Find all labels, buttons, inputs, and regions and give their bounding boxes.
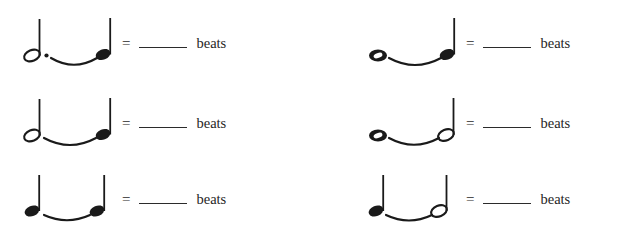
note-stem <box>39 99 41 136</box>
tie-slur <box>44 138 96 145</box>
note-stem <box>109 98 111 135</box>
tie-slur <box>44 215 90 220</box>
answer-group: = beats <box>122 114 226 131</box>
note-quarter-note <box>367 175 385 219</box>
answer-group: = beats <box>466 114 570 131</box>
equals-sign: = <box>466 192 474 207</box>
beats-label: beats <box>196 116 226 131</box>
answer-blank[interactable] <box>483 190 531 204</box>
beats-label: beats <box>540 36 570 51</box>
answer-blank[interactable] <box>139 34 187 48</box>
notation-quarter-tied-quarter <box>18 169 122 227</box>
answer-blank[interactable] <box>483 114 531 128</box>
note-half-note <box>436 98 455 143</box>
note-whole-note <box>369 130 387 142</box>
note-stem <box>382 175 384 211</box>
note-quarter-note <box>88 175 106 219</box>
equals-sign: = <box>466 36 474 51</box>
beats-label: beats <box>196 36 226 51</box>
answer-blank[interactable] <box>483 34 531 48</box>
note-stem <box>453 98 455 135</box>
equals-sign: = <box>122 192 130 207</box>
tie-slur <box>389 58 441 65</box>
tie-slur <box>51 58 97 65</box>
note-stem <box>39 19 41 56</box>
note-dotted-half-note <box>22 19 48 64</box>
note-quarter-note <box>94 98 112 142</box>
note-stem <box>446 175 448 211</box>
beats-label: beats <box>540 116 570 131</box>
notation-half-tied-quarter <box>18 93 122 151</box>
notation-dotted-half-tied-quarter <box>18 13 122 71</box>
notehead-filled <box>438 47 456 62</box>
tie-slur <box>386 215 432 221</box>
answer-blank[interactable] <box>139 190 187 204</box>
augmentation-dot <box>44 53 48 57</box>
notehead-filled <box>94 127 112 142</box>
tie-slur <box>389 138 439 145</box>
beats-label: beats <box>540 192 570 207</box>
notehead-filled <box>367 203 385 218</box>
note-quarter-note <box>23 175 41 219</box>
note-quarter-note <box>94 18 112 62</box>
problem-4: = beats <box>362 90 570 154</box>
worksheet-page: = beats = beats <box>0 0 640 237</box>
notehead-filled <box>88 203 106 218</box>
note-stem <box>38 175 40 211</box>
problem-5: = beats <box>18 166 226 230</box>
answer-group: = beats <box>122 34 226 51</box>
answer-group: = beats <box>466 34 570 51</box>
notehead-filled <box>23 203 41 218</box>
note-stem <box>109 18 111 55</box>
note-half-note <box>22 99 41 144</box>
note-half-note <box>429 175 448 219</box>
note-whole-note <box>369 50 387 62</box>
notehead-filled <box>94 47 112 62</box>
beats-label: beats <box>196 192 226 207</box>
problem-1: = beats <box>18 10 226 74</box>
equals-sign: = <box>122 116 130 131</box>
problem-3: = beats <box>18 90 226 154</box>
notation-whole-tied-half <box>362 93 466 151</box>
note-stem <box>103 175 105 211</box>
note-quarter-note <box>438 18 456 62</box>
notation-whole-tied-quarter <box>362 13 466 71</box>
problem-2: = beats <box>362 10 570 74</box>
answer-group: = beats <box>122 190 226 207</box>
answer-blank[interactable] <box>139 114 187 128</box>
equals-sign: = <box>122 36 130 51</box>
equals-sign: = <box>466 116 474 131</box>
answer-group: = beats <box>466 190 570 207</box>
problem-6: = beats <box>362 166 570 230</box>
notation-quarter-tied-half <box>362 169 466 227</box>
note-stem <box>453 18 455 55</box>
